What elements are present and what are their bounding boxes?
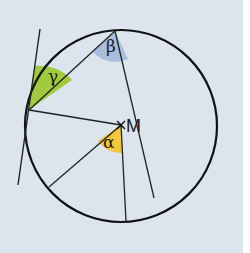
beta-label: β xyxy=(106,36,116,56)
chord-b-lower-right xyxy=(115,31,154,198)
tangent-line xyxy=(18,29,40,185)
radius-m-bottom xyxy=(121,125,126,221)
gamma-label: γ xyxy=(48,66,58,86)
center-label: M xyxy=(126,116,141,136)
alpha-label: α xyxy=(103,132,115,152)
circle-angle-diagram: M α β γ xyxy=(0,0,250,253)
segment-a-m xyxy=(29,110,121,125)
